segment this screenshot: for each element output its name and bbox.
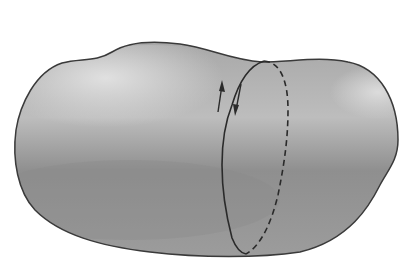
diagram-canvas	[0, 0, 412, 277]
body-shape	[0, 42, 410, 256]
